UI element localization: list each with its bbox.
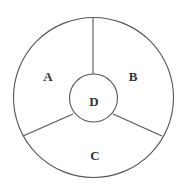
region-label-c: C [90,148,99,163]
segmented-circle-diagram: A B C D [0,0,183,188]
region-label-d: D [89,94,98,109]
divider-right [113,114,162,136]
divider-left [23,114,73,136]
region-label-b: B [129,69,138,84]
region-label-a: A [43,69,53,84]
